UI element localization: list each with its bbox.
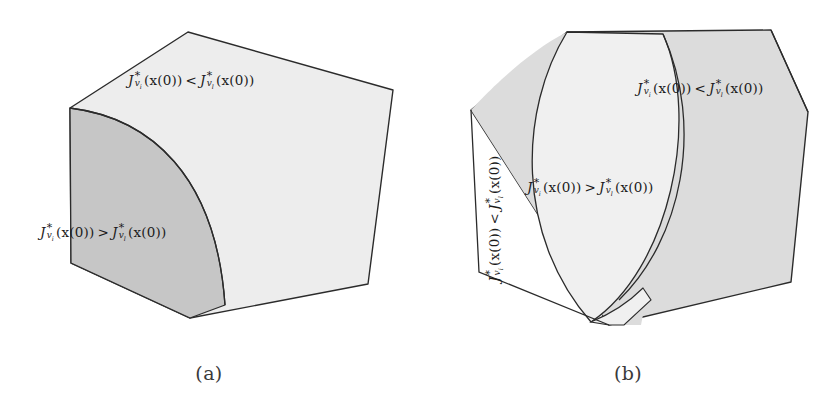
- subscript-lhs: vi: [135, 79, 142, 90]
- math-operator: >: [95, 224, 112, 240]
- panel-a-drawing: [0, 0, 418, 418]
- math-arg-rhs: (x(0)): [216, 72, 254, 88]
- math-arg-rhs: (x(0)): [725, 80, 763, 96]
- math-arg-lhs: (x(0)): [144, 72, 182, 88]
- math-J-rhs: J*vl: [488, 203, 502, 210]
- math-J-rhs: J*vl: [200, 74, 207, 88]
- math-J-rhs: J*vl: [112, 226, 119, 240]
- panel-b-caption: (b): [419, 362, 837, 384]
- math-J-rhs: J*vl: [599, 181, 606, 195]
- math-operator: <: [692, 80, 709, 96]
- subscript-lhs: vi: [644, 87, 651, 98]
- math-arg-rhs: (x(0)): [128, 224, 166, 240]
- math-J-lhs: J*vi: [40, 226, 47, 240]
- panel-a: J*vi(x(0))<J*vl(x(0)) J*vi(x(0))>J*vl(x(…: [0, 0, 418, 418]
- subscript-lhs: vi: [534, 186, 541, 197]
- math-arg-rhs: (x(0)): [615, 179, 653, 195]
- subscript-rhs: vl: [493, 196, 504, 203]
- math-operator: >: [582, 179, 599, 195]
- label-center-band-b: J*vi(x(0))>J*vl(x(0)): [527, 181, 654, 195]
- subscript-lhs: vi: [47, 231, 54, 242]
- subscript-rhs: vl: [716, 87, 723, 98]
- label-left-face-b: J*vi(x(0))<J*vl(x(0)): [488, 155, 502, 282]
- math-J-lhs: J*vi: [527, 181, 534, 195]
- math-arg-lhs: (x(0)): [653, 80, 691, 96]
- math-arg-rhs: (x(0)): [486, 155, 502, 193]
- math-arg-lhs: (x(0)): [56, 224, 94, 240]
- math-operator: <: [183, 72, 200, 88]
- panel-b-drawing: [419, 0, 837, 418]
- math-J-lhs: J*vi: [488, 275, 502, 282]
- math-J-lhs: J*vi: [128, 74, 135, 88]
- panel-b: J*vi(x(0))<J*vl(x(0)) J*vi(x(0))>J*vl(x(…: [419, 0, 837, 418]
- panel-a-caption: (a): [0, 362, 418, 384]
- label-right-face-b: J*vi(x(0))<J*vl(x(0)): [637, 82, 764, 96]
- label-top-face-a: J*vi(x(0))<J*vl(x(0)): [128, 74, 255, 88]
- subscript-rhs: vl: [207, 79, 214, 90]
- math-J-lhs: J*vi: [637, 82, 644, 96]
- math-operator: <: [486, 210, 502, 227]
- subscript-lhs: vi: [493, 268, 504, 275]
- math-arg-lhs: (x(0)): [543, 179, 581, 195]
- subscript-rhs: vl: [119, 231, 126, 242]
- figure-root: J*vi(x(0))<J*vl(x(0)) J*vi(x(0))>J*vl(x(…: [0, 0, 837, 418]
- label-front-face-a: J*vi(x(0))>J*vl(x(0)): [40, 226, 167, 240]
- subscript-rhs: vl: [606, 186, 613, 197]
- math-arg-lhs: (x(0)): [486, 227, 502, 265]
- math-J-rhs: J*vl: [709, 82, 716, 96]
